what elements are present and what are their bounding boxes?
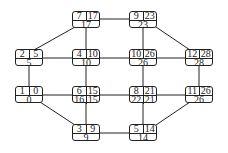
- node-6: 615 1615: [72, 86, 100, 103]
- node-9: 923 23: [129, 11, 157, 28]
- node-7-ls: 17: [73, 21, 99, 29]
- node-2: 25 5: [15, 49, 43, 66]
- node-10-ls: 26: [130, 59, 156, 67]
- node-4-ls: 10: [73, 59, 99, 67]
- node-10: 1026 26: [129, 49, 157, 66]
- node-5-ls: 14: [130, 134, 156, 142]
- node-2-ls: 5: [16, 59, 42, 67]
- node-11: 1126 26: [185, 86, 213, 103]
- node-4: 410 10: [72, 49, 100, 66]
- node-3-ls: 9: [73, 134, 99, 142]
- edge-1-3: [40, 102, 75, 125]
- node-12: 1228 28: [185, 49, 213, 66]
- node-6-lf: 15: [87, 96, 100, 104]
- node-9-ls: 23: [130, 21, 156, 29]
- node-8: 821 2221: [129, 86, 157, 103]
- edge-9-12: [156, 27, 190, 50]
- node-8-lf: 21: [144, 96, 157, 104]
- node-1-ls: 0: [16, 96, 42, 104]
- node-12-ls: 28: [186, 59, 212, 67]
- node-7: 717 17: [72, 11, 100, 28]
- edge-7-2: [34, 27, 75, 50]
- node-8-ls: 22: [130, 96, 144, 104]
- node-5: 514 14: [129, 124, 157, 141]
- edges-layer: [0, 0, 228, 153]
- node-6-ls: 16: [73, 96, 87, 104]
- node-1: 10 0: [15, 86, 43, 103]
- edge-11-5: [156, 102, 190, 125]
- node-3: 39 9: [72, 124, 100, 141]
- node-11-ls: 26: [186, 96, 212, 104]
